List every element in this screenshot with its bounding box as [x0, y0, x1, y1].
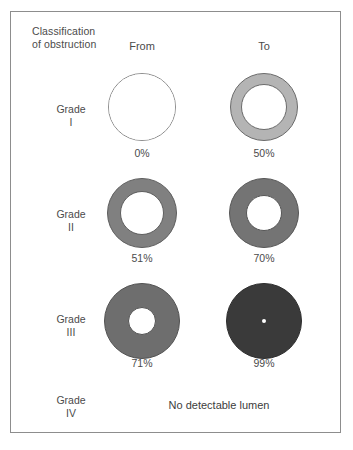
lumen-core-71-percent — [128, 307, 156, 335]
grade-label-4: Grade IV — [23, 394, 119, 419]
lumen-diagram-51-percent — [107, 178, 177, 248]
lumen-diagram-99-percent — [226, 283, 302, 359]
column-header-from: From — [97, 40, 187, 52]
grade-row-1: Grade I 0% 50% — [11, 67, 340, 172]
percent-label-grade2-from: 51% — [97, 252, 187, 264]
percent-label-grade3-from: 71% — [97, 357, 187, 369]
lumen-cell-grade3-from: 71% — [97, 277, 187, 382]
lumen-diagram-70-percent — [229, 178, 299, 248]
column-header-to: To — [219, 40, 309, 52]
percent-label-grade3-to: 99% — [219, 357, 309, 369]
grade-row-4: Grade IV No detectable lumen — [11, 382, 340, 434]
percent-label-grade1-to: 50% — [219, 147, 309, 159]
lumen-diagram-50-percent — [230, 73, 298, 141]
lumen-core-0-percent — [109, 74, 175, 140]
lumen-cell-grade2-from: 51% — [97, 172, 187, 277]
grade-row-2: Grade II 51% 70% — [11, 172, 340, 277]
lumen-core-70-percent — [246, 195, 282, 231]
classification-figure-frame: Classification of obstruction From To Gr… — [10, 11, 341, 433]
lumen-core-50-percent — [241, 84, 287, 130]
percent-label-grade1-from: 0% — [97, 147, 187, 159]
lumen-cell-grade3-to: 99% — [219, 277, 309, 382]
grade-row-3: Grade III 71% 99% — [11, 277, 340, 382]
no-detectable-lumen-text: No detectable lumen — [119, 399, 319, 411]
lumen-core-99-percent — [262, 319, 266, 323]
grade-word-4: Grade — [23, 394, 119, 407]
figure-header-row: Classification of obstruction From To — [11, 12, 340, 70]
lumen-cell-grade1-from: 0% — [97, 67, 187, 172]
lumen-diagram-0-percent — [108, 73, 176, 141]
percent-label-grade2-to: 70% — [219, 252, 309, 264]
lumen-core-51-percent — [120, 191, 164, 235]
grade-numeral-4: IV — [23, 407, 119, 420]
lumen-diagram-71-percent — [104, 283, 180, 359]
classification-title-line-1: Classification — [32, 25, 152, 38]
lumen-cell-grade1-to: 50% — [219, 67, 309, 172]
lumen-cell-grade2-to: 70% — [219, 172, 309, 277]
